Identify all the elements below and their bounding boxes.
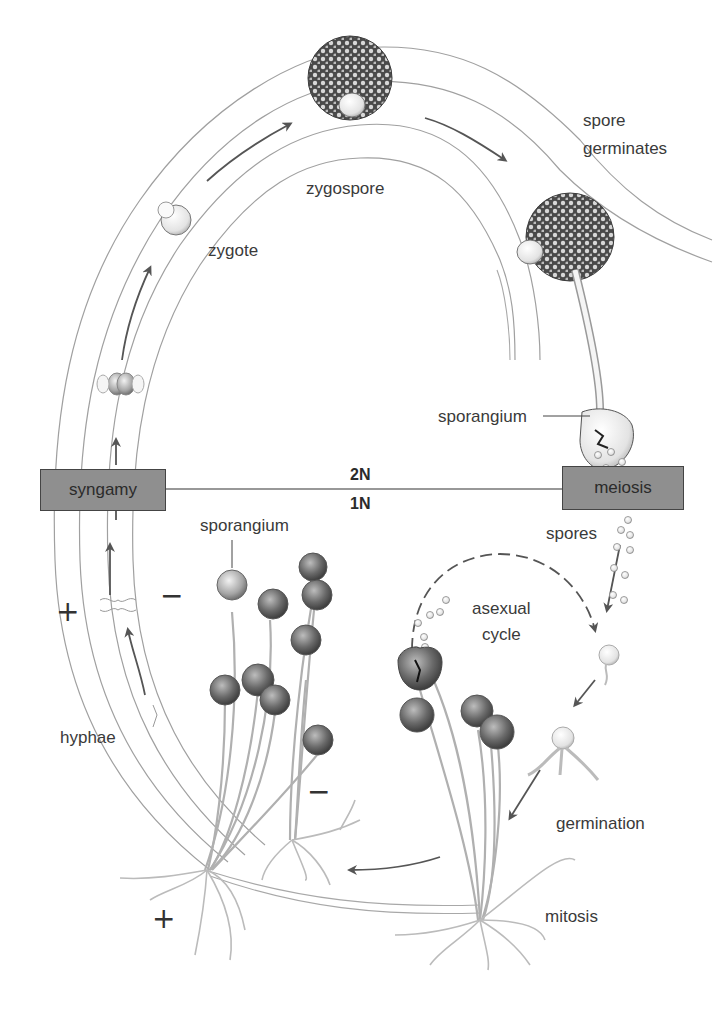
right-sporangia: [398, 647, 514, 749]
germinating-zygospore-illustration: [517, 193, 614, 410]
zygospore-label: zygospore: [306, 178, 384, 199]
syngamy-label: syngamy: [69, 480, 137, 500]
spore-germinates-label-2: germinates: [583, 138, 667, 159]
asexual-cycle-label-1: asexual: [472, 598, 531, 619]
asexual-cycle-label-2: cycle: [482, 624, 521, 645]
progametangia-illustration: [100, 599, 157, 727]
hyphae-label: hyphae: [60, 727, 116, 748]
sporangium-left-label: sporangium: [200, 515, 289, 536]
germinating-spore-illustration: [528, 645, 619, 780]
spore-germinates-label-1: spore: [583, 110, 626, 131]
minus-sign-right: −: [307, 778, 330, 806]
spores-label: spores: [546, 523, 597, 544]
zygote-label: zygote: [208, 240, 258, 261]
germination-label: germination: [556, 813, 645, 834]
syngamy-box: syngamy: [40, 469, 166, 511]
zygospore-illustration: [308, 36, 392, 120]
meiosis-label: meiosis: [594, 478, 652, 498]
gametangia-illustration: [97, 373, 144, 395]
diploid-label: 2N: [350, 466, 370, 484]
sporangium-right-label: sporangium: [438, 406, 527, 427]
plus-sign-left: +: [56, 598, 79, 626]
zygote-illustration: [158, 202, 191, 235]
meiosis-box: meiosis: [562, 466, 684, 510]
mitosis-label: mitosis: [545, 906, 598, 927]
left-sporangiophore-stalks: [205, 570, 318, 870]
haploid-label: 1N: [350, 495, 370, 513]
stolon: [205, 870, 480, 914]
minus-sign-left: −: [160, 582, 183, 610]
plus-sign-bottom: +: [152, 905, 175, 933]
